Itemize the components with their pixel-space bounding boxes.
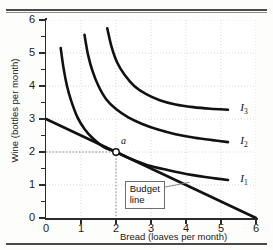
y-tick-minor — [41, 201, 46, 202]
point-label-a: a — [121, 135, 126, 146]
y-tick-minor — [41, 36, 46, 37]
top-rule-thin — [6, 12, 267, 13]
y-tick-major — [39, 151, 46, 152]
bottom-rule — [6, 243, 267, 245]
y-tick-minor — [41, 69, 46, 70]
budget-line-callout: Budgetline — [125, 181, 165, 209]
x-axis-title: Bread (loaves per month) — [120, 231, 227, 242]
x-tick-label: 0 — [36, 222, 56, 234]
figure-container: 0123456 0123456 Wine (bottles per month)… — [0, 0, 273, 250]
curve-label-I1: I1 — [240, 172, 247, 187]
y-tick-minor — [41, 102, 46, 103]
callout-line-2: line — [130, 195, 160, 206]
y-tick-major — [39, 19, 46, 20]
x-tick-label: 6 — [246, 222, 266, 234]
y-tick-minor — [41, 135, 46, 136]
y-tick-major — [39, 217, 46, 218]
y-tick-major — [39, 85, 46, 86]
y-tick-major — [39, 52, 46, 53]
y-tick-label: 6 — [5, 13, 35, 25]
y-tick-label: 0 — [5, 211, 35, 223]
y-tick-major — [39, 118, 46, 119]
x-tick-label: 1 — [71, 222, 91, 234]
curve-label-I3: I3 — [240, 101, 247, 116]
figure-title — [90, 0, 210, 7]
curve-label-I2: I2 — [240, 134, 247, 149]
y-axis-title: Wine (bottles per month) — [9, 31, 20, 191]
y-tick-major — [39, 184, 46, 185]
y-tick-minor — [41, 168, 46, 169]
top-rule — [6, 9, 267, 11]
